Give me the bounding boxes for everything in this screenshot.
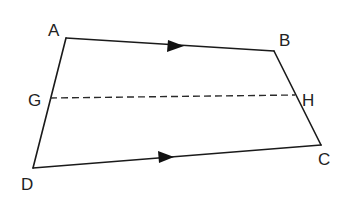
parallel-arrow-icon-dc	[158, 151, 174, 163]
vertex-label-d: D	[21, 175, 33, 194]
vertex-label-a: A	[48, 21, 60, 40]
vertex-label-b: B	[279, 31, 290, 50]
edge-dc	[33, 145, 321, 168]
vertex-label-h: H	[302, 91, 314, 110]
vertex-label-g: G	[28, 91, 41, 110]
dashed-line-gh	[50, 95, 295, 98]
parallel-arrow-icon-ab	[167, 40, 184, 52]
trapezium-diagram: A B C D G H	[0, 0, 347, 207]
vertex-label-c: C	[318, 150, 330, 169]
